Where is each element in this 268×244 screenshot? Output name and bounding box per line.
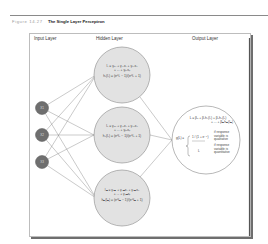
output-linear-combination-cont: + ... + βₘhₘ(lₘ) <box>183 120 233 124</box>
output-linear-equation: L = β₀ + β₁h₁(l₁) + β₂h₂(l₂) + ... + βₘh… <box>183 116 233 124</box>
activation-function: h₂(l₂) = (e^l₂ − 1)/(e^l₂ + 1) <box>98 134 146 138</box>
input-node-label: X2 <box>37 133 47 137</box>
case2-line: quantitative <box>214 151 230 155</box>
input-hidden-edges <box>42 75 96 198</box>
hidden-node-m-equation: lₘ = γ₀ₘ + γ₁ₘx₁ + γ₂ₘx₂ + ... + γₚₘxₚ h… <box>98 188 146 202</box>
input-node-label: X1 <box>37 106 47 110</box>
linear-combination-cont: + ... + γₚ₂xₚ <box>98 128 146 132</box>
input-node-label: X3 <box>37 160 47 164</box>
case2-condition: if response variable is quantitative <box>214 144 230 155</box>
g-label: g(L) = <box>176 137 184 141</box>
case2-expression: L <box>198 150 200 154</box>
linear-combination-cont: + ... + γₚ₁xₚ <box>98 68 146 72</box>
hidden-node-1-equation: l₁ = γ₀₁ + γ₁₁x₁ + γ₂₁x₂ + ... + γₚ₁xₚ h… <box>98 64 146 78</box>
case1-condition: if response variable is qualitative <box>214 131 229 142</box>
activation-function: h₁(l₁) = (e^l₁ − 1)/(e^l₁ + 1) <box>98 74 146 78</box>
case1-line: qualitative <box>214 138 229 142</box>
case1-expression: 1 / (1 + e⁻ᴸ) <box>192 136 208 140</box>
activation-function: hₘ(lₘ) = (e^lₘ − 1)/(e^lₘ + 1) <box>98 198 146 202</box>
hidden-node-2-equation: l₂ = γ₀₂ + γ₁₂x₁ + γ₂₂x₂ + ... + γₚ₂xₚ h… <box>98 124 146 138</box>
linear-combination-cont: + ... + γₚₘxₚ <box>98 192 146 196</box>
